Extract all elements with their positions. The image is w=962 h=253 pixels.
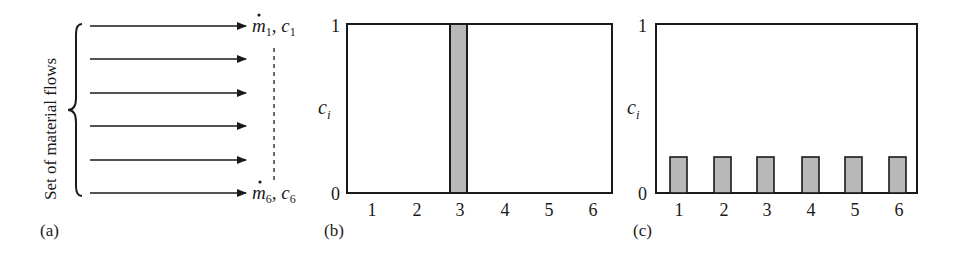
figure-canvas: Set of material flows m1, c1 m6, c6	[0, 0, 962, 253]
flow-label-bottom: m6, c6	[252, 180, 296, 206]
panel-a: Set of material flows m1, c1 m6, c6	[40, 13, 296, 240]
plot-frame	[347, 24, 612, 193]
separator: ,	[272, 15, 282, 36]
bar-4	[802, 157, 819, 193]
svg-text:m6, c6: m6, c6	[252, 182, 296, 206]
x-tick: 6	[895, 200, 904, 220]
x-tick: 3	[763, 200, 772, 220]
brace-label: Set of material flows	[41, 58, 60, 200]
y-axis-subscript: i	[327, 107, 331, 122]
y-axis-label: ci	[318, 96, 331, 122]
y-axis-max: 1	[331, 16, 340, 36]
x-tick: 1	[368, 200, 377, 220]
curly-brace-icon	[68, 24, 82, 196]
bar-3	[450, 24, 467, 193]
x-axis-ticks: 1 2 3 4 5 6	[675, 200, 904, 220]
mass-flow-symbol: m	[252, 182, 266, 203]
x-tick: 4	[807, 200, 816, 220]
y-axis-max: 1	[638, 16, 647, 36]
x-tick: 4	[501, 200, 510, 220]
panel-a-label: (a)	[40, 221, 59, 240]
panel-b-label: (b)	[324, 221, 344, 240]
x-tick: 6	[589, 200, 598, 220]
y-axis-min: 0	[638, 184, 647, 204]
x-tick: 2	[720, 200, 729, 220]
bar-6	[889, 157, 906, 193]
y-axis-label: ci	[627, 96, 640, 122]
x-tick: 2	[413, 200, 422, 220]
x-tick: 5	[851, 200, 860, 220]
bar-3	[757, 157, 774, 193]
y-axis-symbol: c	[627, 96, 636, 118]
panel-b: 1 0 ci 1 2 3 4 5 6 (b)	[318, 16, 612, 240]
bar-1	[670, 157, 687, 193]
mass-flow-symbol: m	[252, 15, 266, 36]
x-tick: 3	[456, 200, 465, 220]
x-axis-ticks: 1 2 3 4 5 6	[368, 200, 598, 220]
panel-c: 1 0 ci 1 2 3 4 5 6 (c)	[627, 16, 917, 240]
panel-c-label: (c)	[633, 221, 652, 240]
y-axis-symbol: c	[318, 96, 327, 118]
bar-5	[845, 157, 862, 193]
separator: ,	[272, 182, 282, 203]
concentration-subscript: 1	[290, 25, 296, 39]
x-tick: 5	[545, 200, 554, 220]
svg-text:m1, c1: m1, c1	[252, 15, 296, 39]
bar-2	[714, 157, 731, 193]
y-axis-min: 0	[331, 184, 340, 204]
x-tick: 1	[675, 200, 684, 220]
flow-label-top: m1, c1	[252, 13, 296, 39]
flow-arrows	[90, 26, 246, 193]
concentration-subscript: 6	[290, 192, 296, 206]
plot-frame	[656, 24, 917, 193]
y-axis-subscript: i	[636, 107, 640, 122]
